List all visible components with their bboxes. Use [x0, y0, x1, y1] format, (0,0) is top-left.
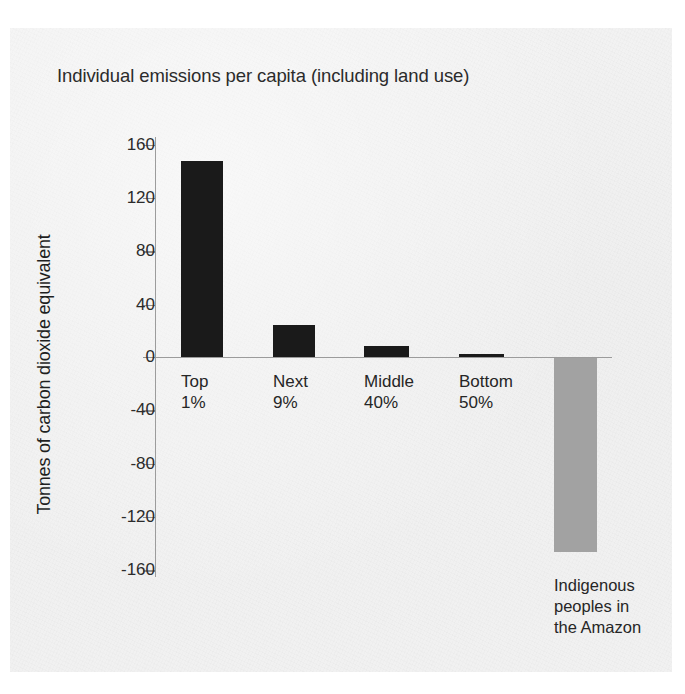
bar-indigenous-amazon[interactable]	[554, 358, 597, 552]
y-tick-label: 120	[95, 188, 155, 208]
x-label-top-1pct: Top 1%	[181, 372, 208, 413]
x-label-next-9pct: Next 9%	[273, 372, 308, 413]
x-label-indigenous-amazon: Indigenous peoples in the Amazon	[554, 575, 641, 638]
y-tick-label: 160	[95, 135, 155, 155]
bar-middle-40pct[interactable]	[364, 346, 409, 357]
y-tick-label: 40	[95, 295, 155, 315]
x-label-middle-40pct: Middle 40%	[364, 372, 414, 413]
y-tick-label: -160	[95, 560, 155, 580]
bar-bottom-50pct[interactable]	[459, 354, 504, 357]
bar-top-1pct[interactable]	[181, 161, 223, 357]
x-label-bottom-50pct: Bottom 50%	[459, 372, 513, 413]
bar-next-9pct[interactable]	[273, 325, 315, 357]
y-tick-label: -40	[95, 400, 155, 420]
y-tick-label: 0	[95, 347, 155, 367]
y-tick-label: 80	[95, 241, 155, 261]
y-tick-label: -80	[95, 454, 155, 474]
y-axis-title: Tonnes of carbon dioxide equivalent	[34, 155, 55, 595]
y-tick-label: -120	[95, 507, 155, 527]
bar-chart-plot: Tonnes of carbon dioxide equivalent 160 …	[0, 0, 685, 694]
